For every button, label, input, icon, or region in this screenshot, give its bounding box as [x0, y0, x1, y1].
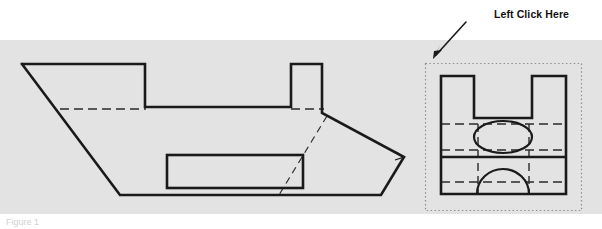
through-hole-ellipse	[474, 121, 532, 153]
pictorial-outline	[22, 64, 404, 195]
pictorial-center-slot	[167, 155, 303, 188]
annotation-arrow	[433, 22, 466, 59]
drawing-layer	[0, 0, 602, 229]
left-click-here-label: Left Click Here	[494, 8, 569, 20]
figure-canvas: Left Click Here Figure 1	[0, 0, 602, 229]
selection-marquee[interactable]	[426, 64, 582, 211]
front-orthographic-view	[426, 64, 582, 211]
oblique-pictorial-view	[22, 64, 404, 195]
ortho-outline	[441, 76, 566, 194]
figure-caption: Figure 1	[6, 217, 39, 229]
